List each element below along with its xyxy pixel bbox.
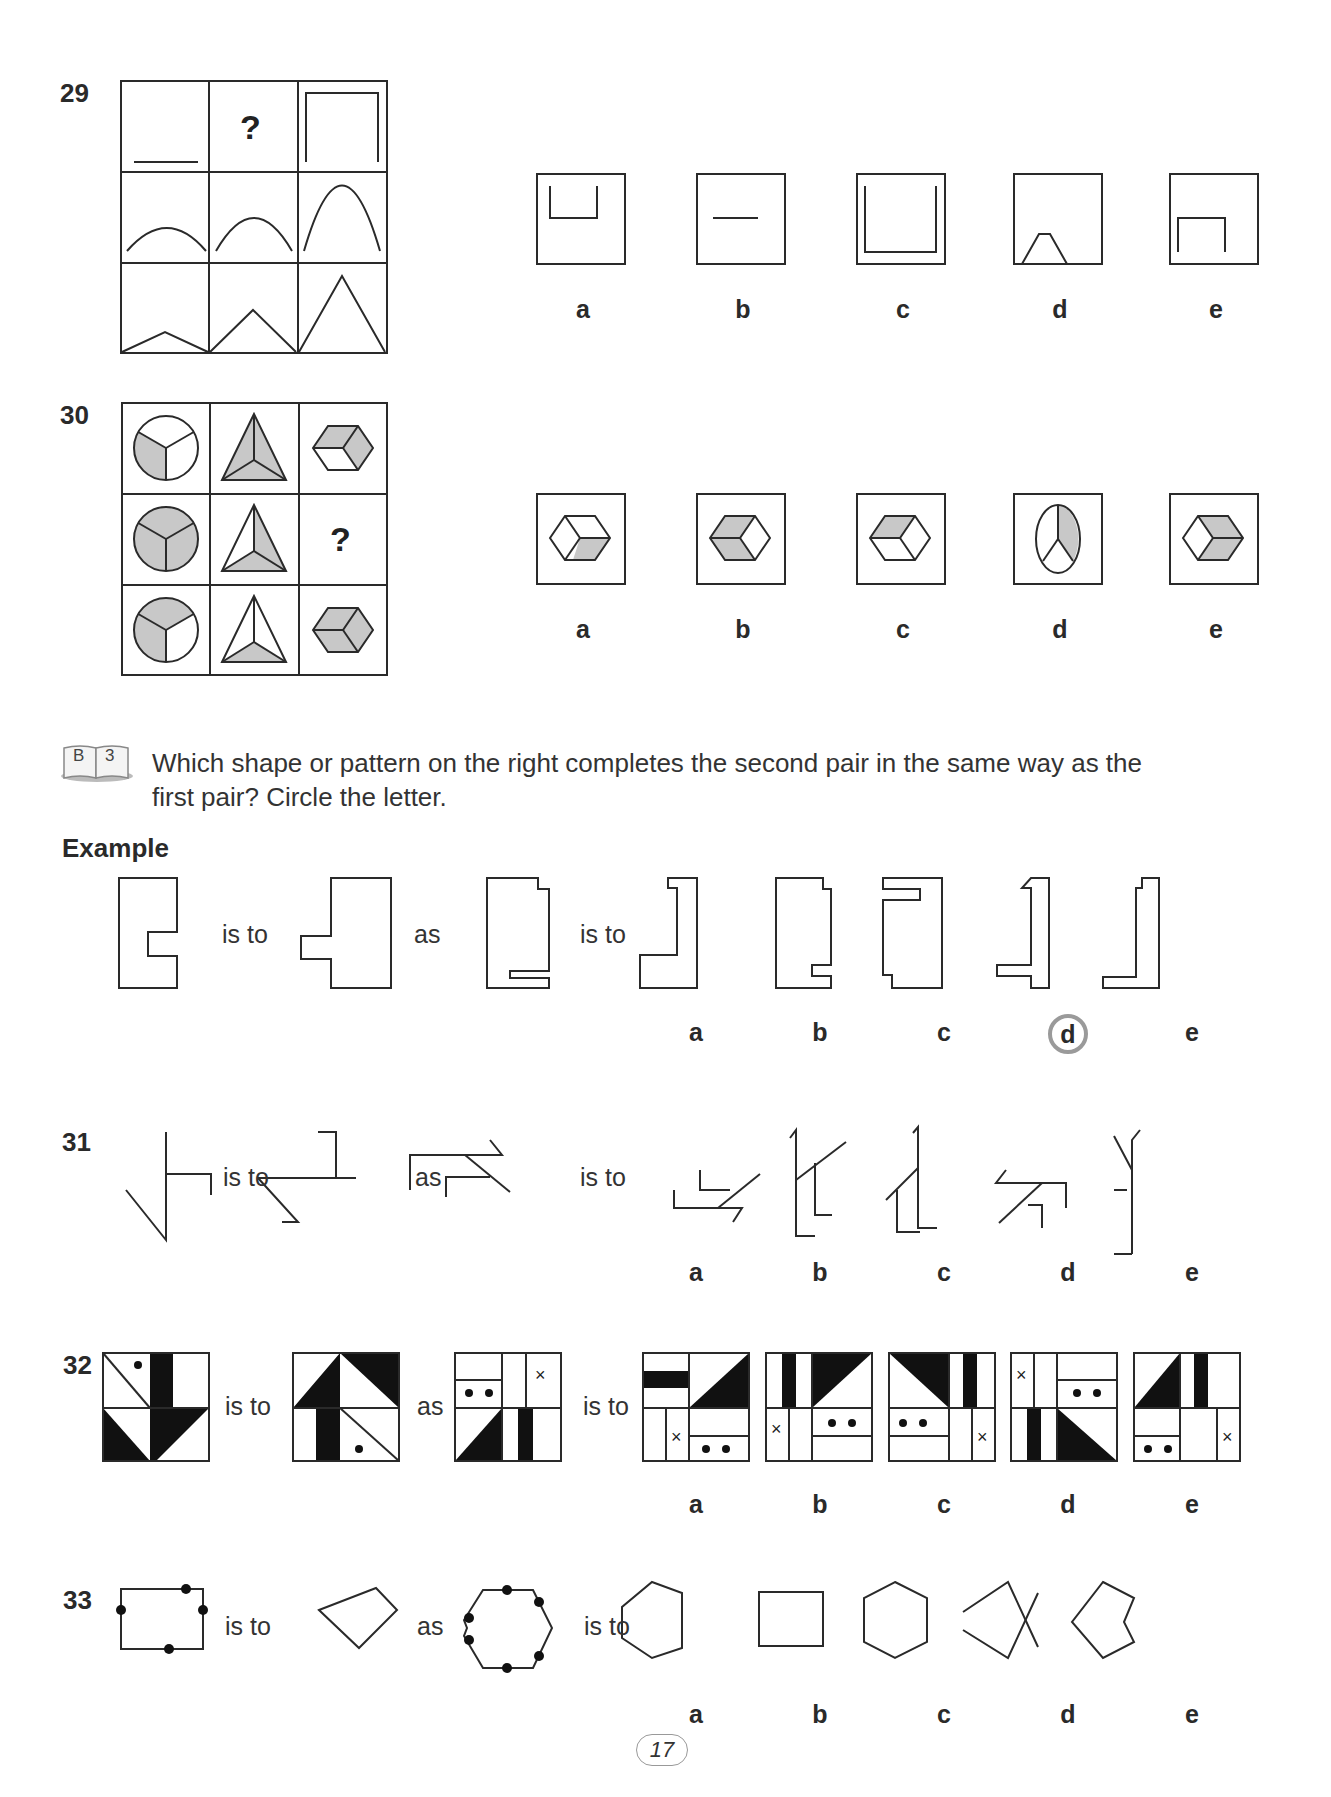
q30-option-d[interactable]: d — [1040, 615, 1080, 644]
example-as: as — [414, 920, 440, 949]
q30-circle-r2 — [134, 507, 198, 571]
q33-option-a-figure — [622, 1582, 682, 1658]
example-option-a-figure — [640, 878, 697, 988]
example-option-d-circled[interactable]: d — [1048, 1014, 1088, 1054]
svg-text:×: × — [671, 1427, 682, 1447]
q30-circle-r1 — [134, 416, 198, 480]
example-shape-3 — [487, 878, 549, 988]
q29-option-b-figure — [697, 174, 785, 264]
example-option-c[interactable]: c — [924, 1018, 964, 1047]
q29-option-d[interactable]: d — [1040, 295, 1080, 324]
q30-option-a[interactable]: a — [563, 615, 603, 644]
q30-triangle-r2 — [222, 505, 286, 571]
q30-option-c[interactable]: c — [883, 615, 923, 644]
book-icon-letter: B — [73, 746, 84, 766]
q32-as: as — [417, 1392, 443, 1421]
instruction-line-2: first pair? Circle the letter. — [152, 780, 447, 814]
q29-option-c-figure — [857, 174, 945, 264]
question-number-32: 32 — [63, 1350, 92, 1381]
svg-text:×: × — [771, 1419, 782, 1439]
q32-option-c[interactable]: c — [924, 1490, 964, 1519]
book-icon — [60, 742, 140, 784]
q31-option-d[interactable]: d — [1048, 1258, 1088, 1287]
q31-option-b[interactable]: b — [800, 1258, 840, 1287]
q31-is-to-2: is to — [580, 1163, 626, 1192]
q33-option-d-figure — [963, 1582, 1038, 1658]
example-option-c-figure — [883, 878, 942, 988]
q31-option-e-figure — [1114, 1130, 1140, 1254]
q29-option-b[interactable]: b — [723, 295, 763, 324]
q33-is-to-1: is to — [225, 1612, 271, 1641]
question-number-31: 31 — [62, 1127, 91, 1158]
q31-option-d-figure — [996, 1170, 1066, 1228]
page-number: 17 — [636, 1734, 688, 1766]
q32-option-b[interactable]: b — [800, 1490, 840, 1519]
q31-option-c-figure — [886, 1127, 937, 1232]
q33-option-d[interactable]: d — [1048, 1700, 1088, 1729]
example-figures — [115, 875, 1225, 995]
q30-option-e-figure — [1170, 494, 1258, 584]
example-option-d-figure — [997, 878, 1049, 988]
q29-missing-cell-marker: ? — [240, 108, 261, 147]
q32-figures: × × × × — [100, 1350, 1250, 1465]
book-icon-number: 3 — [105, 746, 114, 766]
q30-option-b[interactable]: b — [723, 615, 763, 644]
example-option-e-figure — [1103, 878, 1159, 988]
q29-option-a-figure — [537, 174, 625, 264]
example-option-b-figure — [776, 878, 831, 988]
q29-option-e-figure — [1170, 174, 1258, 264]
q31-is-to-1: is to — [223, 1163, 269, 1192]
q33-is-to-2: is to — [584, 1612, 630, 1641]
q30-missing-cell-marker: ? — [330, 520, 351, 559]
example-is-to-2: is to — [580, 920, 626, 949]
q33-option-c-figure — [864, 1582, 927, 1658]
q32-option-d[interactable]: d — [1048, 1490, 1088, 1519]
q30-circle-r3 — [134, 598, 198, 662]
q31-as: as — [415, 1163, 441, 1192]
q33-option-a[interactable]: a — [676, 1700, 716, 1729]
svg-text:×: × — [535, 1365, 546, 1385]
q30-option-d-figure — [1014, 494, 1102, 584]
svg-text:×: × — [1016, 1365, 1027, 1385]
q30-option-c-figure — [857, 494, 945, 584]
q33-option-e-figure — [1072, 1582, 1134, 1658]
example-is-to-1: is to — [222, 920, 268, 949]
q32-option-e[interactable]: e — [1172, 1490, 1212, 1519]
q32-is-to-1: is to — [225, 1392, 271, 1421]
example-option-b[interactable]: b — [800, 1018, 840, 1047]
q32-shape-3: × — [455, 1353, 561, 1461]
q31-option-e[interactable]: e — [1172, 1258, 1212, 1287]
svg-text:×: × — [1222, 1427, 1233, 1447]
q30-cube-r3 — [313, 608, 373, 652]
question-number-33: 33 — [63, 1585, 92, 1616]
example-option-e[interactable]: e — [1172, 1018, 1212, 1047]
q31-figures — [110, 1130, 1240, 1260]
example-option-a[interactable]: a — [676, 1018, 716, 1047]
q30-answer-figures — [535, 492, 1255, 587]
q29-option-e[interactable]: e — [1196, 295, 1236, 324]
q29-option-d-figure — [1014, 174, 1102, 264]
q32-shape-2 — [293, 1353, 399, 1461]
q31-option-c[interactable]: c — [924, 1258, 964, 1287]
example-shape-1 — [119, 878, 177, 988]
q32-shape-1 — [103, 1353, 209, 1461]
q29-option-c[interactable]: c — [883, 295, 923, 324]
q30-option-e[interactable]: e — [1196, 615, 1236, 644]
q33-shape-3 — [464, 1585, 552, 1673]
q33-option-b-figure — [759, 1592, 823, 1646]
q33-option-e[interactable]: e — [1172, 1700, 1212, 1729]
question-number-29: 29 — [60, 78, 89, 109]
q30-option-a-figure — [537, 494, 625, 584]
q29-option-a[interactable]: a — [563, 295, 603, 324]
q31-option-a[interactable]: a — [676, 1258, 716, 1287]
q33-figures — [100, 1580, 1250, 1690]
instruction-line-1: Which shape or pattern on the right comp… — [152, 746, 1142, 780]
q33-as: as — [417, 1612, 443, 1641]
example-heading: Example — [62, 833, 169, 864]
q30-triangle-r3 — [222, 596, 286, 662]
q31-option-b-figure — [790, 1130, 846, 1236]
q32-option-b-figure: × — [766, 1353, 872, 1461]
q33-option-c[interactable]: c — [924, 1700, 964, 1729]
q32-option-a[interactable]: a — [676, 1490, 716, 1519]
q33-option-b[interactable]: b — [800, 1700, 840, 1729]
